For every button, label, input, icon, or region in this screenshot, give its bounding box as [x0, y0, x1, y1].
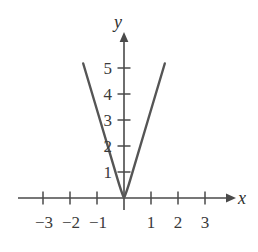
x-tick-label-pos3: 3 — [201, 213, 210, 232]
x-tick-label-neg2: −2 — [62, 213, 80, 232]
y-tick-label-4: 4 — [104, 85, 113, 104]
y-tick-label-5: 5 — [104, 59, 113, 78]
y-tick-label-1: 1 — [104, 163, 113, 182]
x-axis-arrow-icon — [226, 194, 236, 203]
x-tick-label-pos1: 1 — [147, 213, 156, 232]
x-tick-label-neg3: −3 — [35, 213, 53, 232]
x-tick-label-neg1: −1 — [89, 213, 107, 232]
parabola-figure: y x −3 −2 −1 1 2 3 1 2 3 4 5 — [0, 0, 258, 252]
y-axis-label: y — [112, 12, 122, 32]
plot-canvas: y x −3 −2 −1 1 2 3 1 2 3 4 5 — [0, 0, 258, 252]
x-axis-label: x — [237, 188, 246, 208]
y-tick-label-2: 2 — [104, 137, 113, 156]
x-tick-label-pos2: 2 — [174, 213, 183, 232]
y-tick-label-3: 3 — [104, 111, 113, 130]
y-axis-arrow-icon — [120, 32, 129, 42]
